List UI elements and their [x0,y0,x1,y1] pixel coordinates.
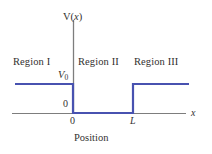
region-label-1: Region I [13,57,50,68]
v0-subscript: 0 [65,73,69,82]
y-axis-title: V(x) [63,12,82,23]
diagram-canvas [0,0,212,154]
x-axis-variable-label: x [191,108,195,118]
x-tick-L-label: L [130,116,136,126]
x-tick-origin-label: 0 [70,116,75,126]
y-axis-title-prefix: V( [63,11,74,22]
v0-value-label: V0 [58,70,68,81]
y-axis-title-suffix: ) [79,11,83,22]
zero-level-label: 0 [63,99,68,109]
potential-curve [15,84,189,113]
region-label-3: Region III [134,57,178,68]
potential-well-diagram: V(x) Region I Region II Region III V0 0 … [0,0,212,154]
v0-symbol: V [58,69,64,80]
x-axis-title: Position [74,133,108,144]
region-label-2: Region II [78,57,119,68]
